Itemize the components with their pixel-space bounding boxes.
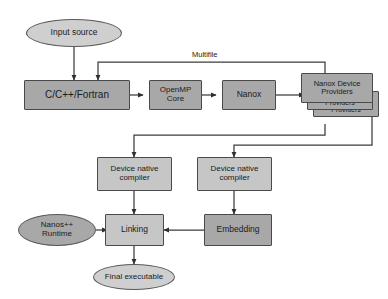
edge-providers-to-left-native-compiler (134, 124, 325, 157)
node-nanos-runtime-label-line2: Runtime (42, 230, 72, 239)
node-embedding-label: Embedding (216, 225, 259, 235)
node-source-languages-label: C/C++/Fortran (45, 89, 109, 100)
node-nanox-label: Nanox (237, 90, 262, 100)
node-final-executable[interactable]: Final executable (93, 264, 175, 290)
node-embedding[interactable]: Embedding (204, 214, 272, 246)
node-nanos-runtime[interactable]: Nanos++ Runtime (18, 214, 96, 246)
edge-label-multifile: Multifile (192, 50, 217, 59)
node-input-source[interactable]: Input source (26, 19, 122, 47)
node-input-source-label: Input source (51, 28, 98, 38)
node-device-native-compiler-left-label-line2: compiler (119, 174, 149, 183)
node-nanox-device-providers[interactable]: Nanox Device Providers (301, 73, 373, 103)
node-nanox-device-providers-label-line2: Providers (321, 88, 353, 96)
node-linking-label: Linking (121, 225, 148, 235)
node-device-native-compiler-right-label-line2: compiler (219, 174, 249, 183)
edge-multifile-feedback (98, 62, 325, 80)
node-nanox[interactable]: Nanox (222, 80, 276, 110)
node-openmp-core[interactable]: OpenMP Core (149, 80, 202, 110)
node-source-languages[interactable]: C/C++/Fortran (24, 80, 130, 110)
node-final-executable-label: Final executable (105, 273, 163, 282)
node-openmp-core-label-line2: Core (167, 95, 184, 104)
node-nanox-device-providers-stack[interactable]: Providers Providers Nanox Device Provide… (301, 73, 387, 123)
node-device-native-compiler-right[interactable]: Device native compiler (197, 157, 272, 191)
node-device-native-compiler-left[interactable]: Device native compiler (97, 157, 172, 191)
node-linking[interactable]: Linking (105, 214, 164, 246)
compilation-flow-diagram: Input source C/C++/Fortran OpenMP Core N… (0, 0, 388, 299)
